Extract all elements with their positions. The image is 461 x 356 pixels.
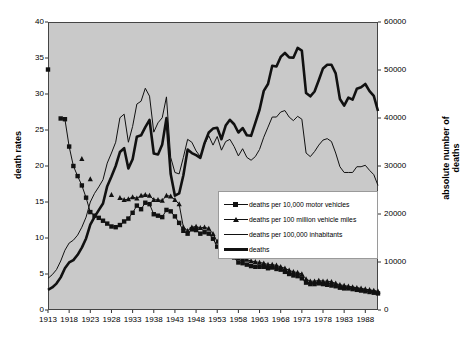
y-axis-right-tick-label: 30000 xyxy=(384,162,424,170)
legend-label-2: deaths per 100,000 inhabitants xyxy=(249,231,342,239)
y-axis-right-tick-label: 20000 xyxy=(384,210,424,218)
legend-marker-thick-line-icon xyxy=(223,244,249,256)
chart-legend: deaths per 10,000 motor vehicles deaths … xyxy=(218,191,378,259)
y-axis-left-tick-label: 35 xyxy=(14,54,44,62)
y-axis-left-tick-label: 0 xyxy=(14,306,44,314)
y-axis-left-title: death rates xyxy=(13,115,23,195)
legend-label-1: deaths per 100 million vehicle miles xyxy=(249,216,356,224)
y-axis-right-tick-label: 40000 xyxy=(384,114,424,122)
legend-item-1[interactable]: deaths per 100 million vehicle miles xyxy=(223,212,373,227)
y-axis-left-tick-label: 15 xyxy=(14,198,44,206)
series-0 xyxy=(46,67,380,295)
legend-item-3[interactable]: deaths xyxy=(223,242,373,257)
legend-label-3: deaths xyxy=(249,246,269,254)
y-axis-right-title: absolute number of deaths xyxy=(441,103,461,213)
y-axis-right-tick-label: 0 xyxy=(384,306,424,314)
y-axis-right-tick-label: 50000 xyxy=(384,66,424,74)
legend-item-2[interactable]: deaths per 100,000 inhabitants xyxy=(223,227,373,242)
legend-marker-thin-line-icon xyxy=(223,229,249,241)
y-axis-right-tick-label: 10000 xyxy=(384,258,424,266)
y-axis-right-tick-label: 60000 xyxy=(384,18,424,26)
legend-item-0[interactable]: deaths per 10,000 motor vehicles xyxy=(223,197,373,212)
legend-marker-triangle-icon xyxy=(223,214,249,226)
legend-label-0: deaths per 10,000 motor vehicles xyxy=(249,201,350,209)
x-axis-tick-label: 1988 xyxy=(348,316,382,324)
legend-marker-square-icon xyxy=(223,199,249,211)
y-axis-left-tick-label: 40 xyxy=(14,18,44,26)
y-axis-left-tick-label: 30 xyxy=(14,90,44,98)
y-axis-left-tick-label: 5 xyxy=(14,270,44,278)
y-axis-left-tick-label: 10 xyxy=(14,234,44,242)
series-layer xyxy=(45,22,381,313)
